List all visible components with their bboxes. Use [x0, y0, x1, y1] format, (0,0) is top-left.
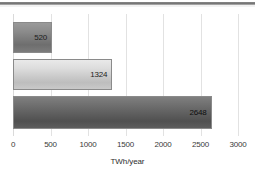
- bar-3: 2648: [13, 96, 212, 129]
- bar-2: 1324: [13, 59, 112, 90]
- xtick-label-500: 500: [44, 140, 57, 149]
- top-edge-artifact-soft: [0, 5, 255, 7]
- bar-3-value-label: 2648: [190, 108, 211, 117]
- xtick-label-3000: 3000: [230, 140, 247, 149]
- xtick-label-2500: 2500: [192, 140, 209, 149]
- bar-1-value-label: 520: [34, 33, 51, 42]
- xtick-label-1000: 1000: [80, 140, 97, 149]
- gridline-3000: [238, 14, 239, 136]
- bar-chart-screenshot: 520 1324 2648 0 500 1000 1500 2000 2500 …: [0, 0, 255, 175]
- bar-1: 520: [13, 22, 52, 53]
- plot-area: 520 1324 2648: [13, 14, 238, 136]
- x-axis-label: TWh/year: [0, 157, 255, 166]
- xtick-label-2000: 2000: [155, 140, 172, 149]
- bar-2-value-label: 1324: [90, 70, 111, 79]
- xtick-label-1500: 1500: [117, 140, 134, 149]
- xtick-label-0: 0: [11, 140, 15, 149]
